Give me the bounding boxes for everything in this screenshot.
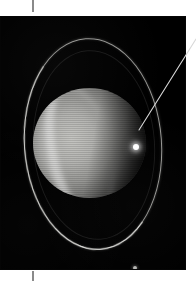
astronomical-image-plate	[0, 16, 186, 270]
bright-satellite-marker	[133, 144, 139, 150]
top-registration-tick	[32, 0, 34, 12]
bottom-registration-tick	[32, 271, 34, 281]
figure-root	[0, 0, 196, 282]
planet-terminator-shading	[33, 88, 146, 198]
faint-satellite-marker	[133, 266, 137, 270]
